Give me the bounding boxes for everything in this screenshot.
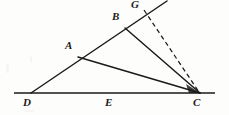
scan-artifact [24,110,34,112]
vertex-label-a: A [65,40,72,51]
vertex-label-g: G [131,0,139,10]
scan-artifact [30,56,32,63]
vertex-label-e: E [105,97,112,108]
cevian-segment-AC [78,57,200,93]
geometry-figure: A B G D E C [0,0,229,115]
scan-artifact [6,64,9,73]
vertex-label-c: C [193,97,200,108]
convergence-mark-c [186,84,200,93]
vertex-label-b: B [112,11,119,22]
vertex-label-d: D [23,97,31,108]
